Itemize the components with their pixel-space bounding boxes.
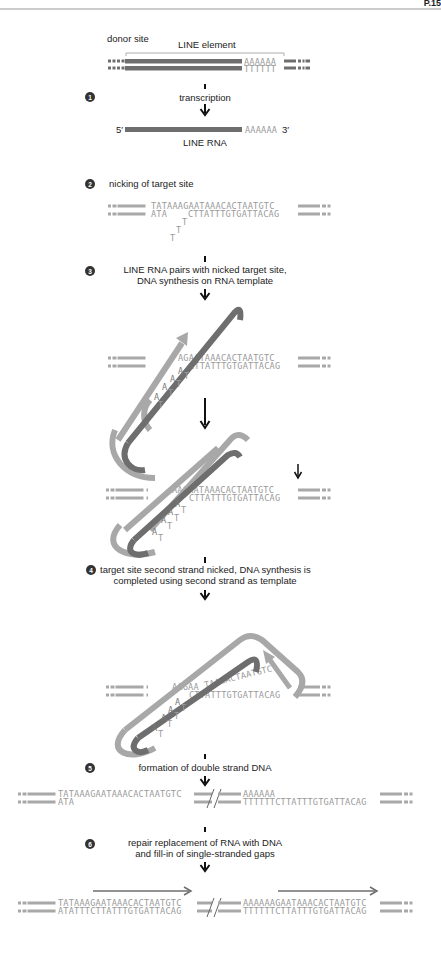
step-5-number: 5 <box>88 765 92 772</box>
step-3-label-line2: DNA synthesis on RNA template <box>137 275 273 286</box>
svg-text:CTTATTTGTGATTACAG: CTTATTTGTGATTACAG <box>189 361 280 371</box>
svg-text:T: T <box>174 711 179 721</box>
svg-text:CTTATTTGTGATTACAG: CTTATTTGTGATTACAG <box>188 209 279 219</box>
svg-text:T: T <box>176 225 181 235</box>
step-2-label: nicking of target site <box>109 178 194 189</box>
svg-text:T: T <box>182 217 187 227</box>
svg-text:T: T <box>158 533 163 543</box>
step-1-label: transcription <box>179 92 231 103</box>
down-arrow-icon <box>201 398 210 428</box>
svg-text:CTTATTTGTGATTACAG: CTTATTTGTGATTACAG <box>189 493 280 503</box>
rna-3prime: 3′ <box>282 124 289 135</box>
double-strand-dna: TATAAAGAATAAACACTAATGTC ATA AAAAAA TTTTT… <box>18 789 415 808</box>
svg-text:T: T <box>184 371 189 381</box>
step-4-completion-diagram: AAGAA TAACACTAATGTC CTTATTTGTGATTACAG AT… <box>106 636 335 754</box>
line-element-label: LINE element <box>178 39 236 50</box>
break-mark <box>207 789 214 808</box>
step-2-number: 2 <box>88 181 92 188</box>
svg-text:T: T <box>167 719 172 729</box>
svg-text:ATA: ATA <box>151 209 168 219</box>
line-rna-strand <box>125 127 242 132</box>
svg-text:ATA: ATA <box>58 797 75 807</box>
repaired-dna: TATAAAGAATAAACACTAATGTC ATATTTCTTATTTGTG… <box>18 887 415 917</box>
svg-text:T: T <box>181 505 186 515</box>
svg-text:T: T <box>174 513 179 523</box>
step-3-number: 3 <box>88 268 92 275</box>
donor-site-label: donor site <box>107 33 149 44</box>
rna-polyA: AAAAAA <box>245 125 278 135</box>
step-6-number: 6 <box>88 841 92 848</box>
direct-repeat-arrow-icon <box>278 887 377 895</box>
line-rna-label: LINE RNA <box>183 137 227 148</box>
page-label: P.15 <box>424 0 441 8</box>
down-arrow-icon <box>201 289 210 299</box>
svg-text:TTTTTTCTTATTTGTGATTACAG: TTTTTTCTTATTTGTGATTACAG <box>243 906 367 916</box>
donor-dna: AAAAAA TTTTTT <box>108 57 310 75</box>
svg-text:T: T <box>176 379 181 389</box>
step-4-number: 4 <box>89 567 93 574</box>
svg-text:TATAAAGAATAAACACTAATGTC: TATAAAGAATAAACACTAATGTC <box>58 789 182 799</box>
rna-5prime: 5′ <box>116 124 123 135</box>
down-arrow-icon <box>201 104 210 115</box>
step-6-label-line1: repair replacement of RNA with DNA <box>128 837 283 848</box>
step-3b-synthesis-diagram: AAGAATAAACACTAATGTC CTTATTTGTGATTACAG AT… <box>106 435 335 555</box>
svg-text:T: T <box>181 703 186 713</box>
down-arrow-icon <box>201 776 210 785</box>
nick-arrow-icon <box>295 464 302 478</box>
step-5-label: formation of double strand DNA <box>138 762 272 773</box>
svg-text:T: T <box>170 233 175 243</box>
step-3-label-line1: LINE RNA pairs with nicked target site, <box>123 264 286 275</box>
step-1-number: 1 <box>88 94 92 101</box>
direct-repeat-arrow-icon <box>93 887 191 895</box>
svg-text:ATATTTCTTATTTGTGATTACAG: ATATTTCTTATTTGTGATTACAG <box>58 906 182 916</box>
svg-text:T: T <box>158 729 163 739</box>
svg-text:T: T <box>158 400 163 410</box>
line-retrotransposition-diagram: P.15 donor site LINE element AAAAAA TTTT… <box>0 0 441 958</box>
donor-polyT: TTTTTT <box>244 64 276 74</box>
target-site-dna-nicked: TATAAAGAATAAACACTAATGTC ATA CTTATTTGTGAT… <box>108 201 335 243</box>
step-6-label-line2: and fill-in of single-stranded gaps <box>135 848 275 859</box>
svg-text:T: T <box>167 521 172 531</box>
svg-text:T: T <box>168 388 173 398</box>
step-4-label-line2: completed using second strand as templat… <box>113 575 296 586</box>
svg-text:TTTTTTCTTATTTGTGATTACAG: TTTTTTCTTATTTGTGATTACAG <box>243 797 367 807</box>
down-arrow-icon <box>201 862 210 871</box>
break-mark <box>207 898 214 917</box>
down-arrow-icon <box>201 590 210 599</box>
step-4-label-line1: target site second strand nicked, DNA sy… <box>100 564 311 575</box>
